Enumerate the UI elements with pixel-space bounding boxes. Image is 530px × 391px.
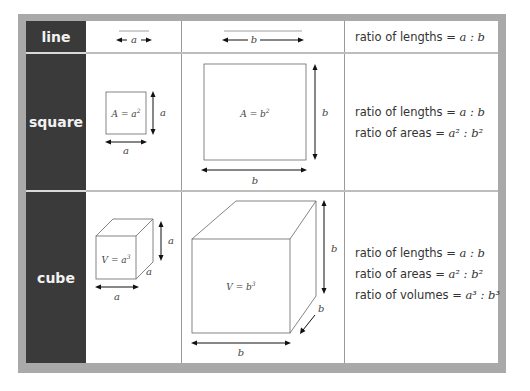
row-line: line a b ratio of lengths [26, 21, 498, 52]
arrow-left-icon [222, 38, 228, 43]
arrow-right-icon [141, 140, 147, 145]
large-line-diagram: b [182, 21, 344, 52]
arrow-down-icon [322, 288, 327, 294]
ratio-lengths-line: ratio of lengths = a : b [355, 30, 485, 44]
line-label-b: b [251, 34, 257, 45]
arrow-left-icon [116, 38, 122, 43]
arrow-right-icon [146, 38, 152, 43]
large-square-side-label: b [322, 107, 328, 118]
large-cube-formula: V = b3 [226, 280, 256, 292]
large-square-diagram: A = b2 b b [182, 54, 344, 190]
arrow-up-icon [151, 91, 156, 97]
small-square-diagram: A = a2 a a [86, 54, 181, 190]
arrow-down-icon [313, 154, 318, 160]
ratio-lengths-cube: ratio of lengths = a : b [355, 246, 485, 260]
ratio-lengths-square: ratio of lengths = a : b [355, 105, 485, 119]
small-square-formula: A = a2 [111, 107, 141, 119]
arrow-left-icon [95, 285, 101, 290]
similarity-table: line a b ratio of lengths [26, 21, 498, 363]
large-square-formula: A = b2 [239, 107, 270, 119]
arrow-left-icon [105, 140, 111, 145]
large-cube-bottom-label: b [238, 347, 244, 358]
large-cube-depth-label: b [318, 303, 324, 314]
line-ratios: ratio of lengths = a : b [345, 21, 498, 52]
large-cube-figure: V = b3 b b b [182, 192, 344, 363]
ratio-volumes-cube: ratio of volumes = a³ : b³ [355, 288, 500, 302]
small-cube-bottom-label: a [114, 291, 120, 302]
arrow-left-icon [201, 168, 207, 173]
ratio-areas-square: ratio of areas = a² : b² [355, 126, 483, 140]
arrow-right-icon [285, 341, 291, 346]
large-square-figure: A = b2 b b [182, 54, 344, 190]
ratio-areas-cube: ratio of areas = a² : b² [355, 267, 483, 281]
row-header-square: square [26, 54, 86, 190]
small-cube-figure: V = a3 a a a [86, 192, 181, 363]
large-square-bottom-label: b [252, 175, 258, 186]
large-cube-diagram: V = b3 b b b [182, 192, 344, 363]
small-line-diagram: a [86, 21, 181, 52]
small-cube-formula: V = a3 [102, 253, 131, 265]
small-cube-side-label: a [168, 235, 174, 246]
large-cube-side-label: b [331, 243, 337, 254]
small-square-figure: A = a2 a a [86, 54, 181, 190]
arrow-up-icon [159, 221, 164, 227]
row-header-line: line [26, 21, 86, 52]
cube-ratios: ratio of lengths = a : b ratio of areas … [345, 192, 498, 363]
square-ratios: ratio of lengths = a : b ratio of areas … [345, 54, 498, 190]
small-cube-diagram: V = a3 a a a [86, 192, 181, 363]
row-cube: cube V = a3 a a a [26, 192, 498, 363]
large-line-figure: b [182, 21, 344, 52]
small-square-side-label: a [160, 107, 166, 118]
line-label-a: a [131, 34, 137, 45]
arrow-right-icon [298, 38, 304, 43]
small-cube-depth-label: a [146, 266, 152, 277]
arrow-right-icon [133, 285, 139, 290]
arrow-left-icon [191, 341, 197, 346]
arrow-down-icon [151, 129, 156, 135]
arrow-right-icon [301, 168, 307, 173]
small-line-figure: a [86, 21, 181, 52]
row-header-cube: cube [26, 192, 86, 363]
small-square-bottom-label: a [123, 145, 129, 156]
row-square: square A = a2 a a A = b2 [26, 54, 498, 190]
arrow-up-icon [322, 200, 327, 206]
arrow-down-icon [159, 255, 164, 261]
arrow-up-icon [313, 64, 318, 70]
